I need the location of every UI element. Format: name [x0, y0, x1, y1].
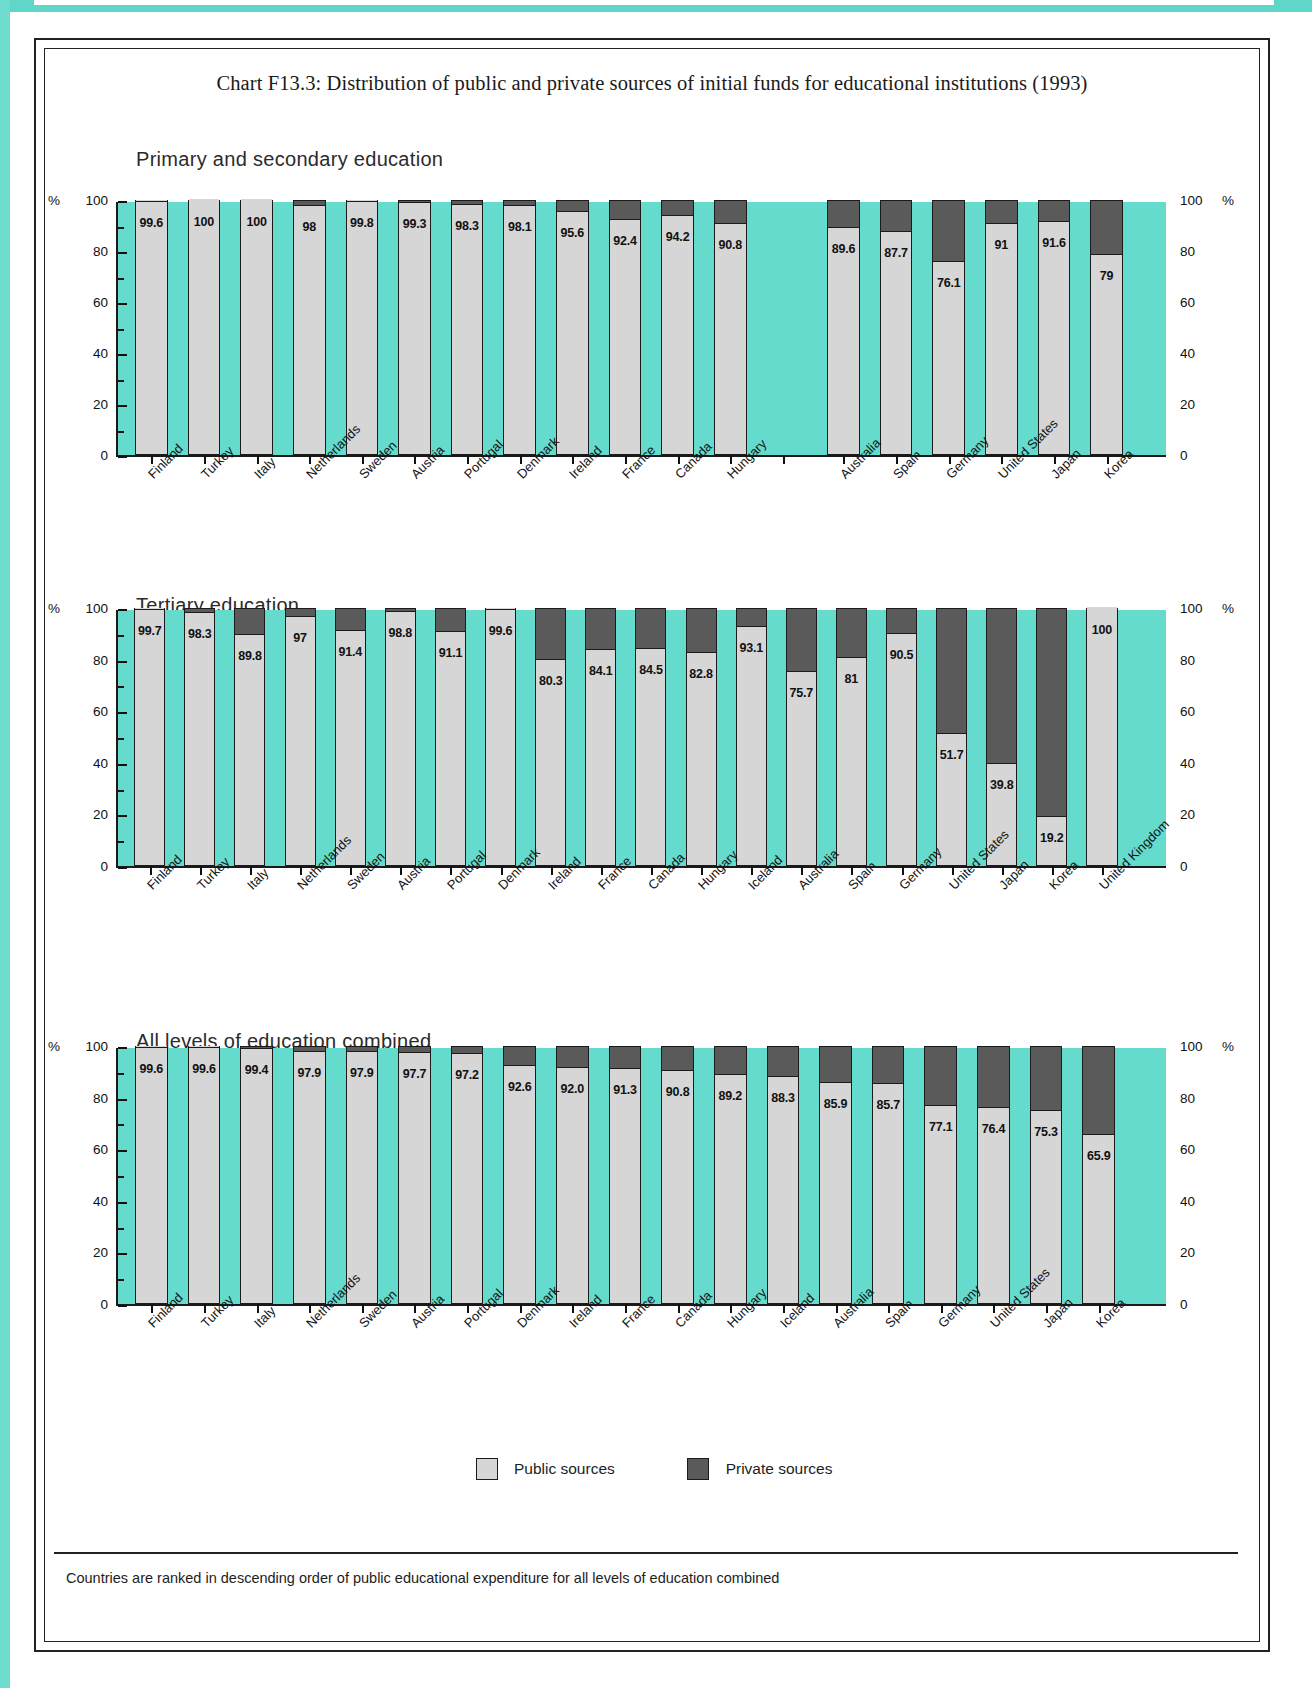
stacked-bar[interactable]: 75.7	[786, 608, 817, 866]
stacked-bar[interactable]: 65.9	[1082, 1046, 1115, 1304]
stacked-bar[interactable]: 97.9	[346, 1046, 379, 1304]
bar-segment-public	[136, 1046, 167, 1303]
bar-segment-private	[452, 201, 483, 205]
y-tick	[118, 1305, 127, 1307]
bar-slot: 51.7	[936, 610, 967, 866]
stacked-bar[interactable]: 98.1	[503, 200, 536, 455]
stacked-bar[interactable]: 84.1	[585, 608, 616, 866]
bar-segment-private	[828, 201, 859, 228]
stacked-bar[interactable]: 77.1	[924, 1046, 957, 1304]
stacked-bar[interactable]: 97.7	[398, 1046, 431, 1304]
y-axis-unit-right: %	[1222, 1039, 1234, 1054]
stacked-bar[interactable]: 99.8	[346, 200, 379, 455]
stacked-bar[interactable]: 51.7	[936, 608, 967, 866]
stacked-bar[interactable]: 97.9	[293, 1046, 326, 1304]
chart-legend: Public sources Private sources	[36, 1458, 1272, 1480]
bar-segment-private	[715, 201, 746, 224]
bar-slot: 98.3	[451, 202, 484, 455]
stacked-bar[interactable]: 99.4	[240, 1046, 273, 1304]
stacked-bar[interactable]: 76.4	[977, 1046, 1010, 1304]
stacked-bar[interactable]: 99.6	[188, 1046, 221, 1304]
stacked-bar[interactable]: 97.2	[451, 1046, 484, 1304]
bar-segment-private	[873, 1047, 904, 1084]
bar-slot: 100	[188, 202, 221, 455]
bar-slot: 99.3	[398, 202, 431, 455]
stacked-bar[interactable]: 80.3	[535, 608, 566, 866]
stacked-bar[interactable]: 85.7	[872, 1046, 905, 1304]
stacked-bar[interactable]: 76.1	[932, 200, 965, 455]
stacked-bar[interactable]: 100	[240, 200, 273, 455]
stacked-bar[interactable]: 81	[836, 608, 867, 866]
bar-slot: 80.3	[535, 610, 566, 866]
bar-value-label: 93.1	[737, 641, 766, 655]
stacked-bar[interactable]: 92.0	[556, 1046, 589, 1304]
bar-segment-private	[1037, 609, 1066, 817]
bar-segment-private	[504, 1047, 535, 1066]
bar-segment-public	[1091, 253, 1122, 454]
y-tick	[118, 661, 127, 663]
stacked-bar[interactable]: 88.3	[767, 1046, 800, 1304]
stacked-bar[interactable]: 85.9	[819, 1046, 852, 1304]
stacked-bar[interactable]: 99.7	[134, 608, 165, 866]
stacked-bar[interactable]: 90.5	[886, 608, 917, 866]
stacked-bar[interactable]: 87.7	[880, 200, 913, 455]
stacked-bar[interactable]: 92.4	[609, 200, 642, 455]
stacked-bar[interactable]: 99.6	[135, 200, 168, 455]
stacked-bar[interactable]: 98.8	[385, 608, 416, 866]
y-axis-tick-label-right: 100	[1180, 193, 1216, 208]
bar-slot: 76.4	[977, 1048, 1010, 1304]
stacked-bar[interactable]: 90.8	[661, 1046, 694, 1304]
stacked-bar[interactable]: 91.1	[435, 608, 466, 866]
stacked-bar[interactable]: 95.6	[556, 200, 589, 455]
stacked-bar[interactable]: 98.3	[451, 200, 484, 455]
bar-slot: 92.6	[503, 1048, 536, 1304]
bar-value-label: 98.3	[452, 219, 483, 233]
stacked-bar[interactable]: 97	[285, 608, 316, 866]
y-axis-tick-label-left: 80	[72, 653, 108, 668]
stacked-bar[interactable]: 98.3	[184, 608, 215, 866]
bar-value-label: 98.3	[185, 627, 214, 641]
stacked-bar[interactable]: 100	[188, 200, 221, 455]
stacked-bar[interactable]: 91.6	[1038, 200, 1071, 455]
bar-segment-public	[241, 1047, 272, 1303]
bar-segment-private	[787, 609, 816, 672]
bar-segment-public	[768, 1075, 799, 1303]
bar-segment-public	[294, 1050, 325, 1303]
stacked-bar[interactable]: 75.3	[1030, 1046, 1063, 1304]
stacked-bar[interactable]: 98	[293, 200, 326, 455]
stacked-bar[interactable]: 94.2	[661, 200, 694, 455]
stacked-bar[interactable]: 99.3	[398, 200, 431, 455]
stacked-bar[interactable]: 92.6	[503, 1046, 536, 1304]
stacked-bar[interactable]: 91.4	[335, 608, 366, 866]
stacked-bar[interactable]: 93.1	[736, 608, 767, 866]
stacked-bar[interactable]: 19.2	[1036, 608, 1067, 866]
y-tick	[118, 1124, 124, 1126]
y-axis-tick-label-right: 0	[1180, 1297, 1216, 1312]
stacked-bar[interactable]: 89.8	[234, 608, 265, 866]
stacked-bar[interactable]: 99.6	[135, 1046, 168, 1304]
stacked-bar[interactable]: 100	[1086, 608, 1117, 866]
bar-value-label: 92.4	[610, 234, 641, 248]
stacked-bar[interactable]: 91	[985, 200, 1018, 455]
bar-segment-private	[135, 609, 164, 610]
bar-segment-private	[662, 1047, 693, 1071]
private-swatch-icon	[687, 1458, 709, 1480]
stacked-bar[interactable]: 84.5	[635, 608, 666, 866]
bar-value-label: 80.3	[536, 674, 565, 688]
stacked-bar[interactable]: 90.8	[714, 200, 747, 455]
bar-segment-private	[185, 609, 214, 613]
bar-segment-private	[136, 201, 167, 202]
stacked-bar[interactable]: 79	[1090, 200, 1123, 455]
stacked-bar[interactable]: 99.6	[485, 608, 516, 866]
chart-title: Chart F13.3: Distribution of public and …	[36, 72, 1268, 95]
y-tick	[118, 1073, 124, 1075]
bar-segment-private	[887, 609, 916, 634]
stacked-bar[interactable]: 91.3	[609, 1046, 642, 1304]
plot-area: 99.61001009899.899.398.398.195.692.494.2…	[116, 202, 1166, 457]
y-axis-tick-label-left: 0	[72, 448, 108, 463]
bar-segment-public	[536, 658, 565, 865]
stacked-bar[interactable]: 89.6	[827, 200, 860, 455]
bar-slot: 79	[1090, 202, 1123, 455]
stacked-bar[interactable]: 82.8	[686, 608, 717, 866]
stacked-bar[interactable]: 89.2	[714, 1046, 747, 1304]
